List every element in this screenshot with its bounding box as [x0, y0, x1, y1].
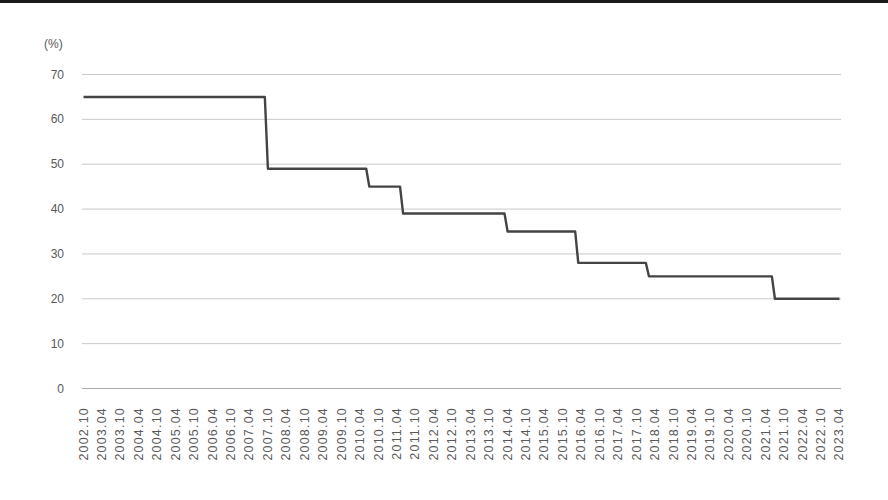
x-tick-label: 2016.10 [593, 407, 607, 461]
x-tick-label: 2019.10 [703, 407, 717, 461]
x-tick-label: 2009.10 [335, 407, 349, 461]
x-tick-label: 2005.04 [169, 407, 183, 461]
x-tick-label: 2023.04 [832, 407, 846, 461]
x-tick-label: 2021.04 [759, 407, 773, 461]
x-tick-label: 2014.04 [501, 407, 515, 461]
x-tick-label: 2011.10 [408, 407, 422, 460]
x-tick-label: 2015.04 [537, 407, 551, 461]
x-tick-label: 2012.10 [445, 407, 459, 461]
x-tick-label: 2004.10 [150, 407, 164, 461]
x-tick-label: 2019.04 [685, 407, 699, 461]
x-tick-label: 2016.04 [574, 407, 588, 461]
x-tick-label: 2006.04 [206, 407, 220, 461]
x-tick-label: 2008.10 [298, 407, 312, 461]
x-tick-label: 2013.10 [482, 407, 496, 461]
y-tick-label: 10 [28, 336, 64, 352]
x-tick-label: 2007.04 [242, 407, 256, 461]
x-tick-label: 2010.04 [353, 407, 367, 461]
y-tick-label: 0 [28, 381, 64, 397]
x-tick-label: 2011.04 [390, 407, 404, 460]
x-tick-label: 2003.04 [95, 407, 109, 461]
chart-canvas: (%) 010203040506070 2002.102003.042003.1… [0, 0, 888, 500]
x-tick-label: 2007.10 [261, 407, 275, 461]
x-tick-label: 2021.10 [777, 407, 791, 461]
x-tick-label: 2009.04 [316, 407, 330, 461]
y-tick-label: 30 [28, 246, 64, 262]
x-tick-label: 2014.10 [519, 407, 533, 461]
x-tick-label: 2004.04 [132, 407, 146, 461]
y-tick-label: 60 [28, 111, 64, 127]
y-tick-label: 70 [28, 67, 64, 83]
x-tick-label: 2020.04 [722, 407, 736, 461]
y-tick-label: 20 [28, 291, 64, 307]
x-tick-label: 2005.10 [187, 407, 201, 461]
x-tick-label: 2017.10 [630, 407, 644, 461]
x-tick-label: 2013.04 [464, 407, 478, 461]
y-tick-label: 40 [28, 201, 64, 217]
x-tick-label: 2022.10 [814, 407, 828, 461]
x-tick-label: 2010.10 [372, 407, 386, 461]
x-tick-label: 2015.10 [556, 407, 570, 461]
x-tick-label: 2008.04 [279, 407, 293, 461]
x-tick-label: 2003.10 [113, 407, 127, 461]
x-tick-label: 2022.04 [796, 407, 810, 461]
x-tick-label: 2017.04 [611, 407, 625, 461]
x-tick-label: 2012.04 [427, 407, 441, 461]
x-tick-label: 2006.10 [224, 407, 238, 461]
x-tick-label: 2020.10 [740, 407, 754, 461]
y-tick-label: 50 [28, 156, 64, 172]
x-tick-label: 2002.10 [77, 407, 91, 461]
data-line-max-rate-percent [84, 97, 840, 299]
x-tick-label: 2018.10 [667, 407, 681, 461]
x-tick-label: 2018.04 [648, 407, 662, 461]
